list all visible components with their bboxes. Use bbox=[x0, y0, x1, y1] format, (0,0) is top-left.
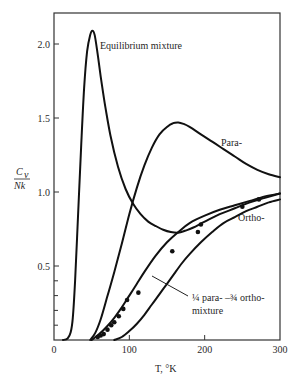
y-tick-label: 1.0 bbox=[38, 187, 51, 198]
specific-heat-chart: 0.51.01.52.0 0100200300 Equilibrium mixt… bbox=[0, 0, 303, 376]
y-axis-label: C v Nk bbox=[13, 166, 30, 191]
data-point bbox=[199, 222, 204, 227]
x-tick-label: 0 bbox=[52, 344, 57, 355]
y-axis-ticks: 0.51.01.52.0 bbox=[38, 39, 60, 326]
data-point bbox=[125, 298, 130, 303]
data-point bbox=[170, 249, 175, 254]
x-tick-label: 300 bbox=[273, 344, 288, 355]
plot-frame bbox=[54, 13, 280, 340]
data-point bbox=[121, 307, 126, 312]
data-point bbox=[257, 197, 262, 202]
y-tick-label: 0.5 bbox=[38, 261, 51, 272]
data-point bbox=[112, 320, 117, 325]
x-axis-label: T, °K bbox=[155, 363, 177, 374]
ylabel-subscript: v bbox=[24, 169, 29, 180]
curve-annotations: Equilibrium mixture Para- Ortho- ¼ para-… bbox=[100, 40, 265, 316]
data-point bbox=[240, 205, 245, 210]
x-tick-label: 100 bbox=[122, 344, 137, 355]
data-point bbox=[105, 327, 110, 332]
annotation-ortho: Ortho- bbox=[238, 212, 265, 223]
x-axis-ticks: 0100200300 bbox=[52, 335, 288, 355]
data-point bbox=[116, 314, 121, 319]
x-tick-label: 200 bbox=[197, 344, 212, 355]
y-tick-label: 1.5 bbox=[38, 113, 51, 124]
annotation-mixture-line1: ¼ para- –¾ ortho- bbox=[192, 292, 264, 303]
data-point bbox=[101, 332, 106, 337]
ylabel-denominator: Nk bbox=[13, 180, 26, 191]
annotation-para: Para- bbox=[221, 137, 242, 148]
data-point bbox=[196, 230, 201, 235]
y-tick-label: 2.0 bbox=[38, 39, 51, 50]
annotation-equilibrium: Equilibrium mixture bbox=[100, 40, 182, 51]
data-point bbox=[136, 290, 141, 295]
ylabel-numerator: C bbox=[16, 166, 23, 177]
annotation-mixture-line2: mixture bbox=[192, 305, 224, 316]
